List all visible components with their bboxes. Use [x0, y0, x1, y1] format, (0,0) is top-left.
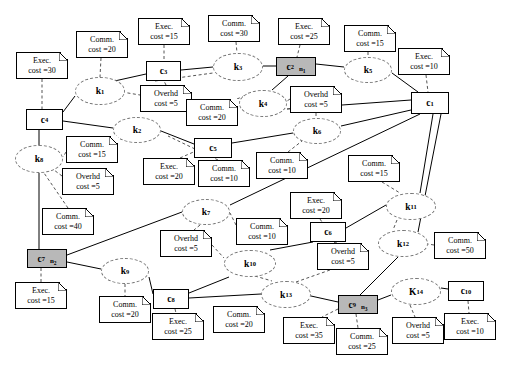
cost-note-n-comm-k8: Comm.cost =15 — [66, 136, 118, 163]
note-cost-value: cost =15 — [345, 39, 395, 49]
edge-c8-k10 — [189, 277, 229, 293]
anchor-k11-k12 — [393, 220, 397, 230]
note-fold-line-icon — [181, 18, 190, 27]
note-cost-value: cost =20 — [144, 172, 194, 182]
cost-note-n-comm-k5: Comm.cost =15 — [344, 25, 396, 52]
task-node-k7[interactable]: k7 — [182, 199, 230, 225]
component-label-subscript: 9 — [353, 301, 356, 308]
task-node-k10[interactable]: k10 — [224, 250, 276, 277]
cost-note-n-comm-k11: Comm.cost =15 — [348, 155, 400, 182]
cost-note-n-exec-c5: Exec.cost =20 — [143, 158, 195, 185]
edge-c4-k2 — [63, 121, 113, 128]
task-node-k1[interactable]: k1 — [75, 77, 125, 105]
note-cost-value: cost =50 — [435, 246, 485, 256]
task-node-k8[interactable]: k8 — [15, 145, 63, 173]
edge-K14-c10 — [441, 288, 448, 289]
note-fold-line-icon — [321, 18, 330, 27]
task-label-subscript: 7 — [207, 209, 210, 216]
task-node-k4[interactable]: k4 — [239, 90, 287, 117]
cost-note-n-comm-k6: Comm.cost =10 — [256, 152, 308, 179]
component-node-c1[interactable]: c1 — [411, 92, 449, 114]
note-cost-value: cost =5 — [318, 257, 368, 267]
cost-note-n-comm-c8: Comm.cost =20 — [213, 306, 265, 333]
cost-note-n-ovhd-k1k3: Overhdcost =5 — [140, 85, 192, 112]
cost-note-n-ovhd-K14: Overhdcost =5 — [392, 317, 444, 344]
task-node-k5[interactable]: k5 — [344, 57, 392, 83]
task-label-subscript: 13 — [285, 291, 292, 298]
note-cost-value: cost =40 — [43, 222, 93, 232]
anchor-c9-n-exec-c9 — [322, 309, 338, 317]
task-label-subscript: 2 — [138, 127, 141, 134]
note-fold-line-icon — [109, 136, 118, 145]
edge-k1-c4 — [63, 96, 75, 112]
anchor-n-exec-c1-c1 — [426, 75, 428, 92]
component-node-c8[interactable]: c8 — [153, 289, 189, 309]
note-cost-value: cost =10 — [237, 232, 287, 242]
note-cost-value: cost =20 — [100, 310, 150, 320]
task-node-k2[interactable]: k2 — [113, 117, 161, 143]
task-label-subscript: 1 — [101, 88, 104, 95]
task-label-subscript: 6 — [318, 128, 321, 135]
cost-note-n-exec-c3: Exec.cost =15 — [138, 18, 190, 45]
note-fold-line-icon — [477, 232, 486, 241]
cost-note-n-comm-k9: Comm.cost =20 — [99, 296, 151, 323]
task-label-subscript: 4 — [264, 100, 267, 107]
note-fold-line-icon — [142, 296, 151, 305]
note-fold-line-icon — [203, 230, 212, 239]
task-label-subscript: 8 — [40, 156, 43, 163]
component-node-c5[interactable]: c5 — [194, 138, 232, 158]
edge-c6-k11 — [346, 205, 386, 228]
component-node-c9[interactable]: c9n3 — [338, 295, 378, 314]
component-node-c3[interactable]: c3 — [146, 61, 181, 81]
note-cost-value: cost =5 — [63, 182, 113, 192]
note-cost-value: cost =10 — [199, 174, 249, 184]
anchor-k13-n-ovhd-c6 — [296, 270, 330, 282]
component-node-c4[interactable]: c4 — [26, 109, 63, 130]
note-fold-line-icon — [229, 99, 238, 108]
component-label-subscript: 1 — [430, 100, 433, 107]
task-node-k6[interactable]: k6 — [293, 118, 341, 144]
edge-c2-k4 — [272, 76, 288, 90]
note-cost-value: cost =30 — [209, 29, 259, 39]
note-fold-line-icon — [435, 317, 444, 326]
edge-c7-k9 — [67, 262, 101, 269]
task-node-k3[interactable]: k3 — [213, 53, 263, 81]
allocation-label: n3 — [361, 303, 368, 313]
note-fold-line-icon — [195, 313, 204, 322]
note-fold-line-icon — [251, 15, 260, 24]
anchor-n-comm-k6-k6 — [288, 141, 302, 152]
task-node-k11[interactable]: k11 — [386, 193, 436, 220]
component-node-c6[interactable]: c6 — [310, 222, 346, 242]
allocation-node-subscript: 3 — [365, 306, 368, 312]
note-fold-line-icon — [487, 313, 496, 322]
note-fold-line-icon — [333, 86, 342, 95]
anchor-n-exec-c2-c2 — [297, 45, 300, 57]
anchor-k10-k13 — [255, 276, 272, 281]
component-node-c10[interactable]: c10 — [448, 281, 484, 301]
task-node-k12[interactable]: k12 — [378, 230, 428, 257]
edge-k13-c9 — [311, 296, 338, 302]
component-node-c2[interactable]: c2n1 — [276, 57, 316, 76]
note-fold-line-icon — [59, 52, 68, 61]
note-fold-line-icon — [279, 218, 288, 227]
cost-note-n-ovhd-k7: Overhdcost =5 — [160, 230, 212, 257]
task-label-subscript: 10 — [249, 260, 256, 267]
cost-note-n-ovhd-k4k6: Overhdcost =5 — [290, 86, 342, 113]
note-fold-line-icon — [85, 208, 94, 217]
task-label-subscript: 9 — [126, 268, 129, 275]
task-node-k9[interactable]: k9 — [101, 258, 149, 284]
cost-note-n-comm-c7: Comm.cost =40 — [42, 208, 94, 235]
note-cost-value: cost =15 — [67, 150, 117, 160]
task-label-subscript: 11 — [411, 203, 417, 210]
anchor-n-comm-k3-k3 — [236, 42, 237, 53]
cost-note-n-ovhd-c6: Overhdcost =5 — [317, 243, 369, 270]
note-fold-line-icon — [105, 168, 114, 177]
component-node-c7[interactable]: c7n2 — [27, 249, 67, 268]
note-cost-value: cost =10 — [399, 62, 449, 72]
component-label-subscript: 7 — [42, 255, 45, 262]
task-node-K14[interactable]: K14 — [391, 278, 441, 305]
note-cost-value: cost =20 — [77, 45, 127, 55]
task-node-k13[interactable]: k13 — [261, 281, 311, 308]
note-fold-line-icon — [186, 158, 195, 167]
note-fold-line-icon — [326, 317, 335, 326]
